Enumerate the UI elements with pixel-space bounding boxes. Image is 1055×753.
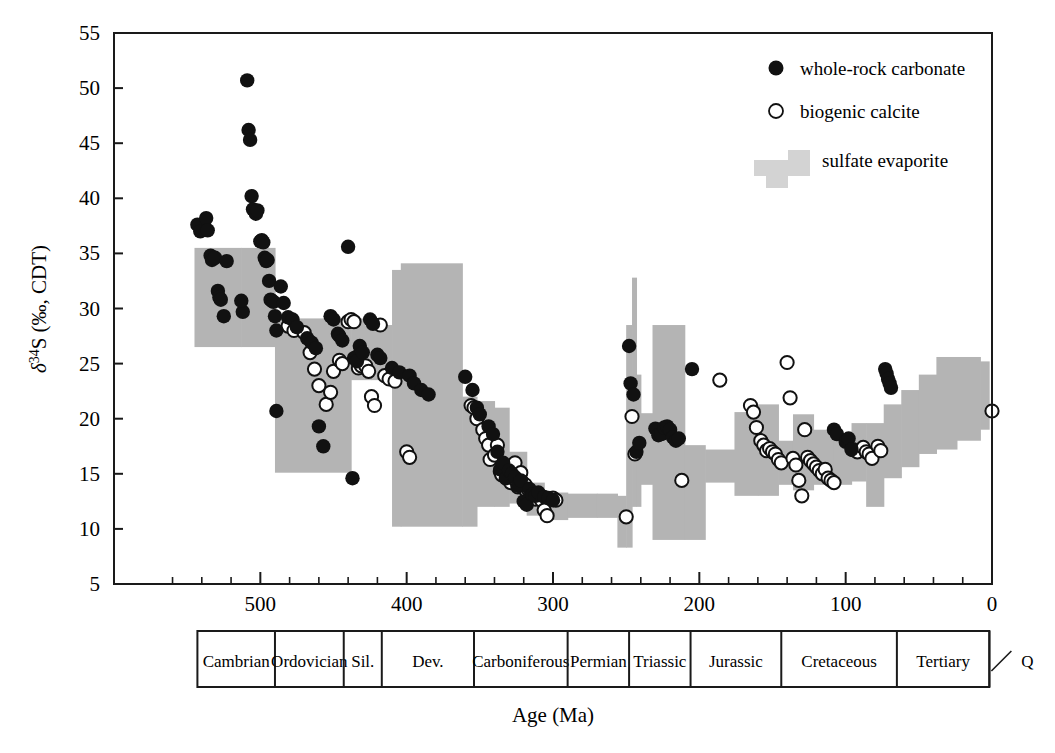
x-axis-label: Age (Ma) — [512, 703, 594, 727]
evaporite-segment — [705, 450, 735, 483]
timescale-period-label: Cretaceous — [801, 652, 877, 671]
whole-rock-carbonate-point — [356, 345, 370, 359]
biogenic-calcite-point — [403, 451, 416, 464]
x-tick-label: 400 — [391, 592, 423, 616]
biogenic-calcite-point — [750, 421, 763, 434]
biogenic-calcite-point — [625, 410, 638, 423]
evaporite-segment — [568, 494, 598, 518]
y-tick-label: 45 — [79, 131, 100, 155]
timescale-period-label: Cambrian — [203, 652, 271, 671]
geologic-timescale-bar: CambrianOrdovicianSil.Dev.CarboniferousP… — [197, 631, 1033, 687]
whole-rock-carbonate-point — [844, 442, 858, 456]
legend-label-whole-rock-carbonate: whole-rock carbonate — [800, 58, 965, 79]
biogenic-calcite-point — [541, 509, 554, 522]
legend-filled-circle-icon — [769, 61, 784, 76]
whole-rock-carbonate-point — [309, 341, 323, 355]
legend-open-circle-icon — [769, 104, 783, 118]
biogenic-calcite-point — [784, 391, 797, 404]
y-tick-label: 5 — [90, 572, 101, 596]
whole-rock-carbonate-point — [685, 362, 699, 376]
whole-rock-carbonate-point — [277, 296, 291, 310]
whole-rock-carbonate-point — [199, 211, 213, 225]
sulfur-isotope-figure: 510152025303540455055 5004003002001000 δ… — [0, 0, 1055, 753]
timescale-period-label: Permian — [570, 652, 627, 671]
whole-rock-carbonate-point — [421, 387, 435, 401]
timescale-period-label: Dev. — [412, 652, 443, 671]
whole-rock-carbonate-point — [622, 339, 636, 353]
evaporite-segment — [901, 390, 919, 467]
whole-rock-carbonate-point — [244, 189, 258, 203]
y-tick-label: 35 — [79, 241, 100, 265]
whole-rock-carbonate-point — [260, 253, 274, 267]
timescale-period-label: Tertiary — [916, 652, 970, 671]
whole-rock-carbonate-point — [345, 471, 359, 485]
whole-rock-carbonate-point — [546, 493, 560, 507]
biogenic-calcite-point — [362, 365, 375, 378]
whole-rock-carbonate-point — [201, 223, 215, 237]
whole-rock-carbonate-point — [341, 240, 355, 254]
timescale-period-label: Ordovician — [271, 652, 348, 671]
evaporite-segment — [685, 445, 706, 540]
whole-rock-carbonate-point — [626, 387, 640, 401]
whole-rock-carbonate-point — [366, 317, 380, 331]
whole-rock-carbonate-point — [268, 309, 282, 323]
biogenic-calcite-point — [675, 474, 688, 487]
x-tick-label: 300 — [537, 592, 569, 616]
biogenic-calcite-point — [347, 315, 360, 328]
legend-label-biogenic-calcite: biogenic calcite — [800, 101, 920, 122]
biogenic-calcite-point — [781, 356, 794, 369]
biogenic-calcite-point — [308, 363, 321, 376]
whole-rock-carbonate-point — [240, 73, 254, 87]
whole-rock-carbonate-point — [214, 293, 228, 307]
timescale-period-label: Sil. — [351, 652, 374, 671]
whole-rock-carbonate-point — [234, 294, 248, 308]
evaporite-segment — [597, 494, 618, 518]
evaporite-segment — [919, 375, 937, 454]
biogenic-calcite-point — [827, 476, 840, 489]
evaporite-segment — [392, 270, 401, 527]
whole-rock-carbonate-point — [316, 439, 330, 453]
biogenic-calcite-point — [792, 474, 805, 487]
quaternary-leader-line — [991, 651, 1011, 671]
whole-rock-carbonate-point — [326, 312, 340, 326]
whole-rock-carbonate-point — [884, 381, 898, 395]
whole-rock-carbonate-point — [486, 427, 500, 441]
biogenic-calcite-point — [713, 374, 726, 387]
y-tick-label: 30 — [79, 297, 100, 321]
whole-rock-carbonate-point — [243, 133, 257, 147]
evaporite-segment — [936, 357, 957, 450]
x-tick-label: 500 — [245, 592, 277, 616]
whole-rock-carbonate-point — [335, 333, 349, 347]
whole-rock-carbonate-point — [373, 351, 387, 365]
whole-rock-carbonate-point — [672, 431, 686, 445]
timescale-period-label-quaternary: Q — [1021, 652, 1033, 671]
svg-text:δ34S (‰, CDT): δ34S (‰, CDT) — [27, 245, 52, 373]
biogenic-calcite-point — [789, 458, 802, 471]
whole-rock-carbonate-point — [217, 309, 231, 323]
biogenic-calcite-point — [368, 399, 381, 412]
y-tick-label: 10 — [79, 517, 100, 541]
y-tick-label: 20 — [79, 407, 100, 431]
biogenic-calcite-point — [798, 423, 811, 436]
whole-rock-carbonate-point — [312, 419, 326, 433]
x-tick-label: 100 — [830, 592, 862, 616]
whole-rock-carbonate-point — [465, 383, 479, 397]
x-tick-label: 200 — [684, 592, 716, 616]
whole-rock-carbonate-point — [473, 407, 487, 421]
biogenic-calcite-point — [795, 489, 808, 502]
whole-rock-carbonate-point — [220, 254, 234, 268]
whole-rock-carbonate-point — [269, 404, 283, 418]
y-tick-label: 15 — [79, 462, 100, 486]
whole-rock-carbonate-point — [632, 436, 646, 450]
timescale-period-label: Carboniferous — [472, 652, 569, 671]
y-tick-label: 40 — [79, 186, 100, 210]
biogenic-calcite-point — [874, 444, 887, 457]
whole-rock-carbonate-point — [269, 323, 283, 337]
evaporite-segment — [980, 361, 989, 429]
y-axis-label: δ34S (‰, CDT) — [27, 245, 52, 373]
y-axis-label-units: (‰, CDT) — [27, 245, 51, 338]
whole-rock-carbonate-point — [274, 279, 288, 293]
legend-label-sulfate-evaporite: sulfate evaporite — [822, 150, 948, 171]
evaporite-segment — [884, 404, 902, 478]
whole-rock-carbonate-point — [458, 370, 472, 384]
